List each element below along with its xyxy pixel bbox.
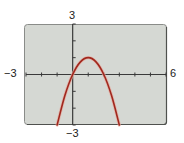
graph-window xyxy=(0,0,184,143)
